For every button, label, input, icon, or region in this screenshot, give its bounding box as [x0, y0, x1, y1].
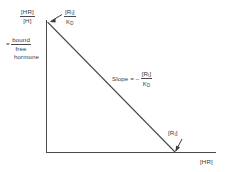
- y-axis-description-numerator: bound: [11, 36, 31, 45]
- y-intercept-denominator-subscript: D: [70, 21, 73, 26]
- y-axis-ratio-numerator: [HR]: [20, 8, 35, 17]
- y-axis-ratio-fraction: [HR] [H]: [20, 8, 35, 24]
- x-intercept-arrow-icon: [175, 139, 182, 152]
- y-intercept-denominator: KD: [64, 17, 76, 25]
- slope-lead-text: Slope = –: [112, 75, 141, 82]
- slope-denominator: KD: [141, 79, 153, 87]
- x-axis-label: [HR]: [200, 158, 213, 165]
- slope-denominator-subscript: D: [147, 83, 150, 88]
- y-intercept-arrow-icon: [50, 15, 62, 23]
- slope-fraction: [Rt] KD: [141, 70, 153, 88]
- y-axis-description-fraction: boundfree: [11, 36, 31, 52]
- slope-numerator-close: ]: [149, 70, 151, 77]
- y-axis-ratio-denominator: [H]: [20, 17, 35, 25]
- x-intercept-close: ]: [176, 129, 178, 136]
- y-intercept-fraction: [Rt] KD: [64, 8, 76, 26]
- slope-numerator: [Rt]: [141, 70, 153, 79]
- y-axis-description-denominator: free: [11, 45, 31, 53]
- y-axis-description-label: =boundfree hormone: [6, 36, 39, 60]
- y-intercept-label: [Rt] KD: [64, 8, 76, 26]
- y-axis-description-tail: hormone: [6, 52, 39, 60]
- y-intercept-numerator: [Rt]: [64, 8, 76, 17]
- y-axis-ratio-label: [HR] [H]: [20, 8, 35, 24]
- x-intercept-label: [Rt]: [168, 129, 178, 137]
- slope-label: Slope = – [Rt] KD: [112, 70, 152, 88]
- scatchard-plot-figure: [HR] [H] =boundfree hormone [Rt] KD Slop…: [0, 0, 230, 172]
- y-intercept-numerator-close: ]: [73, 8, 75, 15]
